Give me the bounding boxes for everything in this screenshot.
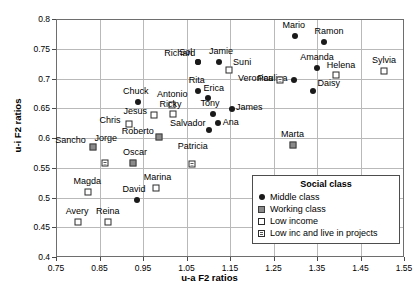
data-point [152,184,159,191]
data-point-label: Rita [189,75,205,85]
data-point [135,99,141,105]
legend-item-label: Low inc and live in projects [270,229,378,238]
legend-marker-icon [257,218,266,225]
data-point-label: Veronica [238,73,273,83]
data-point [206,127,212,133]
data-point [216,59,222,65]
y-tick-label: 0.8 [12,14,50,24]
data-point [292,33,298,39]
data-point-label: Richard [164,48,195,58]
y-tick-label: 0.75 [12,44,50,54]
legend: Social class Middle classWorking classLo… [252,175,400,244]
legend-item: Low income [257,215,395,227]
data-point [215,120,221,126]
y-axis-label: u-i F2 ratios [12,81,23,171]
data-point-label: Jorge [94,133,117,143]
data-point [333,71,340,78]
legend-rows: Middle classWorking classLow incomeLow i… [257,191,395,239]
legend-item: Low inc and live in projects [257,227,395,239]
x-tick-mark [230,257,231,261]
data-point [195,59,201,65]
data-point-label: David [122,184,145,194]
data-point [314,65,320,71]
x-tick-mark [143,257,144,261]
data-point-label: Helena [327,60,356,70]
data-point-label: James [236,102,263,112]
legend-marker-icon [257,230,266,237]
data-point [155,133,162,140]
data-point-label: Erica [204,83,225,93]
gridline-horizontal [57,79,403,80]
data-point-label: Jesus [124,106,148,116]
x-tick-mark [56,257,57,261]
data-point [126,121,133,128]
data-point [170,110,177,117]
data-point-label: Salvador [170,118,206,128]
data-point-label: Ana [223,117,239,127]
data-point-label: Marta [281,129,304,139]
data-point [291,77,297,83]
data-point-label: Sylvia [372,55,396,65]
data-point [89,143,96,150]
legend-item: Middle class [257,191,395,203]
data-point-label: Suni [233,57,251,67]
data-point-label: Patricia [178,141,208,151]
y-tick-label: 0.4 [12,252,50,262]
data-point [195,88,201,94]
data-point-label: Ricky [159,99,181,109]
data-point [210,111,216,117]
x-tick-mark [361,257,362,261]
data-point-label: Jamie [209,46,233,56]
legend-title: Social class [257,179,395,189]
data-point [129,159,136,166]
data-point [226,67,233,74]
data-point [289,142,296,149]
legend-item-label: Working class [270,205,326,214]
legend-marker-icon [257,194,266,200]
y-tick-label: 0.45 [12,222,50,232]
data-point-label: Marina [144,172,172,182]
data-point-label: Avery [66,206,89,216]
data-point-label: Sancho [55,135,86,145]
data-point [229,106,235,112]
data-point [101,159,108,166]
y-tick-mark [52,49,56,50]
data-point [134,197,140,203]
y-tick-mark [52,227,56,228]
data-point [321,39,327,45]
data-point-label: Daisy [317,78,340,88]
data-point-label: Mario [283,20,306,30]
gridline-horizontal [57,168,403,169]
data-point [380,67,387,74]
data-point [188,161,195,168]
data-point [277,77,284,84]
legend-item-label: Middle class [270,193,320,202]
data-points-layer: MarioRamonSolJamieRichardAmandaPaulinaRi… [0,0,419,21]
data-point-label: Reina [96,206,120,216]
scatter-chart: 0.750.850.951.051.151.251.351.451.55 0.4… [0,0,419,293]
y-tick-mark [52,19,56,20]
legend-marker-icon [257,206,266,213]
x-tick-mark [187,257,188,261]
data-point [75,218,82,225]
legend-item-label: Low income [270,217,318,226]
data-point-label: Magda [73,176,101,186]
x-tick-mark [404,257,405,261]
data-point [151,112,158,119]
data-point-label: Chuck [123,86,149,96]
data-point-label: Ramon [314,26,343,36]
data-point-label: Chris [100,115,121,125]
data-point [104,218,111,225]
y-tick-mark [52,168,56,169]
data-point-label: Oscar [123,147,147,157]
x-tick-mark [317,257,318,261]
data-point-label: Tony [201,98,220,108]
x-tick-mark [274,257,275,261]
y-tick-mark [52,257,56,258]
y-tick-label: 0.5 [12,193,50,203]
y-tick-mark [52,198,56,199]
data-point [310,88,316,94]
y-tick-mark [52,108,56,109]
legend-item: Working class [257,203,395,215]
x-tick-mark [100,257,101,261]
